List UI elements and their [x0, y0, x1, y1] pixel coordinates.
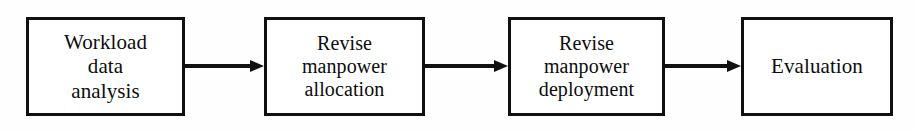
- node-text-line: deployment: [539, 78, 634, 101]
- arrow-connector-1: [185, 60, 264, 73]
- node-text-line: Revise: [317, 32, 372, 55]
- flowchart-diagram: Workload data analysis Revise manpower a…: [0, 0, 916, 131]
- arrow-shaft: [665, 64, 728, 68]
- arrow-head-icon: [250, 60, 264, 72]
- arrow-shaft: [425, 64, 495, 68]
- node-text-line: Workload: [64, 30, 147, 54]
- node-text-line: Revise: [559, 32, 614, 55]
- arrow-head-icon: [494, 60, 508, 72]
- process-node-evaluation: Evaluation: [741, 17, 893, 116]
- arrow-connector-2: [425, 60, 508, 73]
- process-node-revise-manpower-deployment: Revise manpower deployment: [508, 17, 665, 116]
- node-text-line: manpower: [302, 55, 387, 78]
- process-node-workload-data-analysis: Workload data analysis: [26, 17, 185, 116]
- process-node-revise-manpower-allocation: Revise manpower allocation: [264, 17, 425, 116]
- node-text-line: Evaluation: [771, 54, 863, 78]
- node-text-line: analysis: [71, 79, 139, 103]
- node-text-line: manpower: [544, 55, 629, 78]
- arrow-shaft: [185, 64, 251, 68]
- arrow-head-icon: [727, 60, 741, 72]
- node-text-line: allocation: [305, 78, 385, 101]
- node-text-line: data: [88, 54, 123, 78]
- arrow-connector-3: [665, 60, 741, 73]
